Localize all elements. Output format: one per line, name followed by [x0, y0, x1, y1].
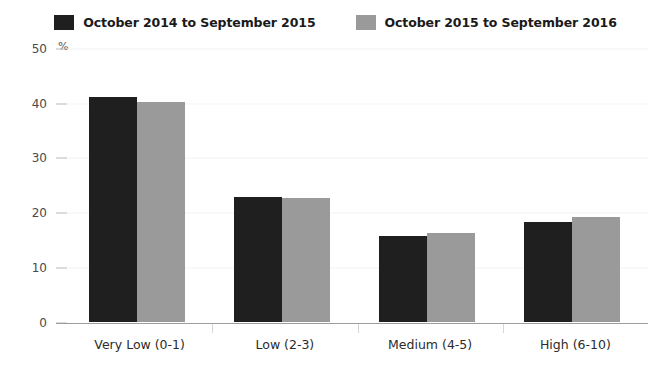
bar-series-1: [379, 236, 427, 323]
bar-series-2: [427, 233, 475, 323]
x-axis-tick-mark: [358, 324, 359, 333]
plot-area: 01020304050 Very Low (0-1)Low (2-3)Mediu…: [0, 0, 671, 369]
bar-series-2: [137, 102, 185, 322]
x-axis-tick-mark: [503, 324, 504, 333]
x-axis-tick-mark: [212, 324, 213, 333]
bar-series-2: [572, 217, 620, 322]
x-axis-category-label: Very Low (0-1): [94, 337, 185, 352]
bar-series-1: [524, 222, 572, 323]
bar-series-2: [282, 198, 330, 323]
x-axis-category-label: Medium (4-5): [388, 337, 472, 352]
bar-chart: October 2014 to September 2015 October 2…: [0, 0, 671, 369]
bar-series-layer: [0, 0, 671, 369]
x-axis-category-label: High (6-10): [540, 337, 611, 352]
bar-series-1: [234, 197, 282, 322]
bar-series-1: [89, 97, 137, 322]
x-axis-category-label: Low (2-3): [255, 337, 314, 352]
